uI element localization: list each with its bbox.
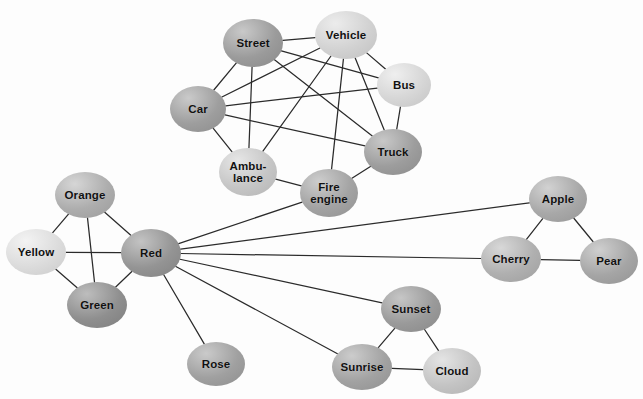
graph-node-street[interactable]: Street xyxy=(223,19,283,67)
graph-node-label: Vehicle xyxy=(324,29,368,41)
graph-node-label: Red xyxy=(138,247,164,259)
graph-node-label: Ambu- lance xyxy=(228,160,269,184)
graph-node-label: Cherry xyxy=(490,253,532,265)
graph-node-orange[interactable]: Orange xyxy=(55,172,115,218)
graph-node-label: Orange xyxy=(63,189,108,201)
graph-node-ambulance[interactable]: Ambu- lance xyxy=(219,148,277,196)
graph-node-green[interactable]: Green xyxy=(67,282,127,328)
graph-node-layer: StreetVehicleBusCarTruckAmbu- lanceFire … xyxy=(0,0,643,399)
graph-node-label: Street xyxy=(234,37,271,49)
graph-node-label: Bus xyxy=(391,79,417,91)
graph-node-sunset[interactable]: Sunset xyxy=(381,286,441,332)
graph-node-label: Car xyxy=(186,103,209,115)
network-graph-canvas: StreetVehicleBusCarTruckAmbu- lanceFire … xyxy=(0,0,643,399)
graph-node-cloud[interactable]: Cloud xyxy=(423,348,481,394)
graph-node-sunrise[interactable]: Sunrise xyxy=(332,344,392,390)
graph-node-label: Truck xyxy=(375,146,410,158)
graph-node-fireengine[interactable]: Fire engine xyxy=(300,169,358,217)
graph-node-label: Apple xyxy=(540,193,576,205)
graph-node-label: Rose xyxy=(200,358,233,370)
graph-node-car[interactable]: Car xyxy=(170,86,226,132)
graph-node-label: Cloud xyxy=(433,365,470,377)
graph-node-label: Yellow xyxy=(16,246,56,258)
graph-node-label: Green xyxy=(78,299,116,311)
graph-node-label: Sunset xyxy=(390,303,433,315)
graph-node-truck[interactable]: Truck xyxy=(364,129,422,175)
graph-node-vehicle[interactable]: Vehicle xyxy=(315,11,377,59)
graph-node-cherry[interactable]: Cherry xyxy=(481,236,541,282)
graph-node-apple[interactable]: Apple xyxy=(529,176,587,222)
graph-node-label: Pear xyxy=(594,255,623,267)
graph-node-pear[interactable]: Pear xyxy=(580,238,638,284)
graph-node-rose[interactable]: Rose xyxy=(187,342,245,386)
graph-node-yellow[interactable]: Yellow xyxy=(6,229,66,275)
graph-node-red[interactable]: Red xyxy=(121,229,181,277)
graph-node-label: Fire engine xyxy=(308,181,350,205)
graph-node-label: Sunrise xyxy=(339,361,386,373)
graph-node-bus[interactable]: Bus xyxy=(377,63,431,107)
